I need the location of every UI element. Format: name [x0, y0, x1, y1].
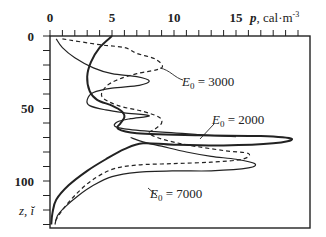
x-tick-0: 0: [47, 10, 54, 25]
x-axis-title: p, cal·m-3: [249, 10, 299, 25]
depth-profile-chart: 0 5 10 15 0 50 100 p, cal·m-3 z, ĭ E0 = …: [0, 0, 326, 237]
x-axis-ticks: [50, 30, 298, 36]
y-axis-ticks: [43, 36, 50, 225]
annotation-e0-2000: E0 = 2000: [211, 112, 264, 129]
y-tick-100: 100: [15, 174, 35, 189]
annotation-e0-3000: E0 = 3000: [181, 74, 234, 91]
leader-line-3000: [160, 68, 183, 80]
x-tick-5: 5: [109, 10, 116, 25]
series-line-2: [55, 138, 256, 225]
x-tick-10: 10: [168, 10, 181, 25]
x-tick-15: 15: [230, 10, 244, 25]
y-axis-title: z, ĭ: [18, 203, 36, 218]
annotation-e0-7000: E0 = 7000: [149, 186, 202, 203]
y-tick-50: 50: [21, 101, 34, 116]
y-tick-0: 0: [28, 29, 35, 44]
